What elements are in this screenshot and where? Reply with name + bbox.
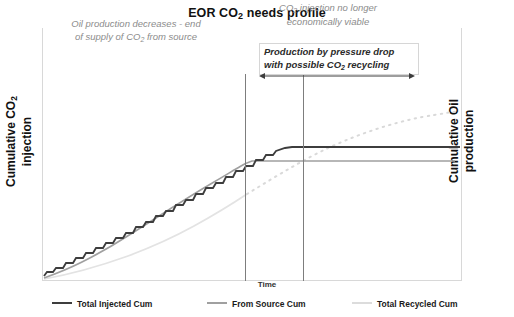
double-headed-arrow-icon xyxy=(258,70,416,82)
legend-item-from-source-cum[interactable]: From Source Cum xyxy=(207,294,306,310)
annotation-right-line2: economically viable xyxy=(228,16,428,29)
annotation-box-line1: Production by pressure drop xyxy=(264,45,416,58)
legend-label-from-source-cum: From Source Cum xyxy=(232,299,306,309)
legend-item-total-recycled-cum[interactable]: Total Recycled Cum xyxy=(352,294,458,310)
series-total-recycled-cum-dotted xyxy=(247,111,460,194)
annotation-left-line2-post: from source xyxy=(144,31,197,42)
legend-swatch-from-source-cum xyxy=(207,302,227,304)
y-axis-left-title-text: Cumulative CO xyxy=(4,101,18,187)
annotation-box-line2-post: recycling xyxy=(345,59,389,70)
annotation-right-line1: CO2 injection no longer xyxy=(228,2,428,16)
legend-item-total-injected-cum[interactable]: Total Injected Cum xyxy=(52,294,152,310)
legend-label-total-recycled-cum: Total Recycled Cum xyxy=(377,299,458,309)
annotation-production-by-pressure-drop: Production by pressure drop with possibl… xyxy=(264,45,416,72)
x-axis-title: Time xyxy=(237,280,297,289)
annotation-right-line1-post: injection no longer xyxy=(297,2,377,13)
y-axis-right-title-line2: production xyxy=(462,61,477,221)
vertical-marker-end-of-injection xyxy=(303,74,304,281)
annotation-box-line2-pre: with possible CO xyxy=(264,59,341,70)
annotation-right-subscript: 2 xyxy=(293,7,297,14)
legend-swatch-total-injected-cum xyxy=(52,302,72,304)
chart-root: EOR CO2 needs profile Cumulative CO2 inj… xyxy=(0,0,514,317)
annotation-oil-production-decreases: Oil production decreases - end of supply… xyxy=(41,18,231,44)
y-axis-left-subscript: 2 xyxy=(9,96,19,101)
series-from-source-cum xyxy=(44,161,455,278)
y-axis-left-title: Cumulative CO2 injection xyxy=(4,62,35,222)
legend-label-total-injected-cum: Total Injected Cum xyxy=(77,299,152,309)
vertical-marker-end-of-source-supply xyxy=(245,74,246,281)
annotation-left-subscript: 2 xyxy=(140,36,144,43)
annotation-co2-injection-no-longer-viable: CO2 injection no longer economically via… xyxy=(228,2,428,28)
annotation-left-line2-pre: of supply of CO xyxy=(75,31,140,42)
annotation-left-line1: Oil production decreases - end xyxy=(41,18,231,31)
y-axis-left-title-line2: injection xyxy=(20,62,35,222)
legend-swatch-total-recycled-cum xyxy=(352,302,372,304)
series-total-injected-cum xyxy=(44,147,460,276)
annotation-left-line2: of supply of CO2 from source xyxy=(41,31,231,45)
y-axis-left-title-line1: Cumulative CO2 xyxy=(4,62,20,222)
annotation-right-line1-pre: CO xyxy=(279,2,293,13)
chart-legend: Total Injected Cum From Source Cum Total… xyxy=(0,294,514,310)
